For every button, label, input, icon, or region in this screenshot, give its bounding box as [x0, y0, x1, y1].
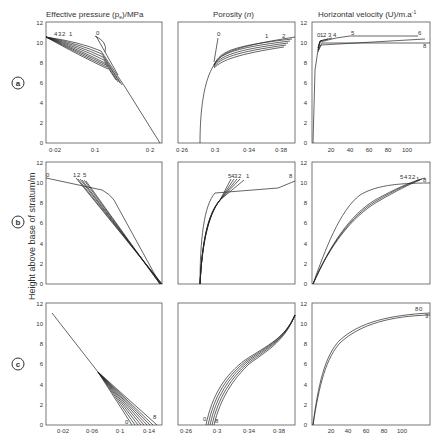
svg-text:0·26: 0·26	[176, 147, 189, 153]
svg-text:0: 0	[304, 281, 308, 287]
svg-text:0: 0	[40, 281, 44, 287]
x-ticks-pressure-a: 0·02 0·1 0·2	[49, 147, 155, 153]
svg-text:8: 8	[40, 341, 44, 347]
curves-b-porosity	[200, 179, 295, 284]
svg-text:8: 8	[423, 177, 427, 183]
curve-labels-a-pressure: 4 3 2 1 0	[54, 30, 100, 37]
svg-text:0·3: 0·3	[213, 428, 222, 434]
svg-text:8: 8	[40, 200, 44, 206]
svg-text:12: 12	[36, 20, 43, 26]
svg-text:0: 0	[40, 140, 44, 146]
svg-text:6: 6	[418, 30, 422, 36]
svg-text:4: 4	[304, 241, 308, 247]
svg-text:20: 20	[328, 428, 335, 434]
x-ticks-porosity-a: 0·26 0·3 0·34 0·38	[176, 147, 288, 153]
svg-text:0·06: 0·06	[86, 428, 99, 434]
svg-text:6: 6	[40, 361, 44, 367]
curve-labels-a-porosity: 0 1 2	[217, 31, 286, 39]
curves-c-pressure	[52, 313, 157, 425]
svg-text:0: 0	[304, 140, 308, 146]
y-ticks-right-a: 0 2 4 6 8 10 12	[300, 20, 307, 146]
svg-text:2: 2	[323, 32, 327, 38]
svg-text:10: 10	[36, 40, 43, 46]
svg-text:0·3: 0·3	[211, 147, 220, 153]
svg-text:2: 2	[40, 261, 44, 267]
svg-text:5: 5	[351, 30, 355, 36]
svg-text:12: 12	[300, 160, 307, 166]
curves-c-porosity	[206, 315, 295, 425]
svg-text:10: 10	[300, 180, 307, 186]
x-ticks-porosity-c: 0·26 0·3 0·34 0·38	[180, 428, 286, 434]
curve-labels-b-pressure: 0 1 2 5	[46, 172, 87, 178]
svg-text:2: 2	[304, 261, 308, 267]
svg-text:12: 12	[300, 301, 307, 307]
svg-text:8: 8	[423, 43, 427, 49]
svg-text:20: 20	[328, 147, 335, 153]
svg-text:2: 2	[62, 31, 66, 37]
svg-text:2: 2	[238, 173, 242, 179]
svg-text:0·34: 0·34	[243, 428, 256, 434]
svg-text:0·26: 0·26	[180, 428, 193, 434]
svg-text:40: 40	[347, 147, 354, 153]
svg-text:8: 8	[153, 414, 157, 420]
svg-text:0: 0	[96, 30, 100, 36]
title-velocity: Horizontal velocity (U)/m.a-1	[318, 9, 416, 19]
title-porosity: Porosity (n)	[213, 10, 254, 19]
svg-text:4: 4	[40, 241, 44, 247]
svg-text:1: 1	[69, 31, 73, 37]
svg-text:1: 1	[246, 173, 250, 179]
svg-text:10: 10	[36, 180, 43, 186]
svg-text:0·02: 0·02	[49, 147, 62, 153]
svg-text:100: 100	[397, 428, 408, 434]
svg-text:3: 3	[425, 313, 429, 319]
x-ticks-pressure-c: 0·02 0·06 0·1 0·14	[57, 428, 156, 434]
svg-text:8: 8	[304, 200, 308, 206]
svg-text:0: 0	[40, 422, 44, 428]
svg-text:80: 80	[381, 428, 388, 434]
svg-text:4: 4	[304, 100, 308, 106]
svg-text:4: 4	[304, 382, 308, 388]
svg-text:1: 1	[416, 176, 420, 182]
svg-text:2: 2	[282, 33, 286, 39]
svg-text:3: 3	[328, 32, 332, 38]
x-ticks-velocity-c: 20 40 60 80 100	[328, 428, 408, 434]
svg-text:12: 12	[36, 301, 43, 307]
svg-text:10: 10	[300, 321, 307, 327]
curves-b-pressure	[46, 178, 162, 284]
svg-text:0·2: 0·2	[146, 147, 155, 153]
svg-text:60: 60	[363, 428, 370, 434]
svg-text:100: 100	[402, 147, 413, 153]
svg-text:0: 0	[217, 31, 221, 37]
svg-text:0: 0	[419, 306, 423, 312]
svg-text:8: 8	[304, 60, 308, 66]
svg-text:0·34: 0·34	[243, 147, 256, 153]
y-ticks-right-b: 0 2 4 6 8 10 12	[300, 160, 307, 287]
figure: Effective pressure (pe)/MPa Porosity (n)…	[0, 0, 440, 444]
curve-labels-c-velocity: 8 0 3	[415, 306, 429, 319]
svg-text:5: 5	[83, 172, 87, 178]
svg-text:6: 6	[304, 220, 308, 226]
svg-text:8: 8	[289, 173, 293, 179]
y-axis-label: Height above base of stratum/m	[27, 172, 37, 300]
svg-text:40: 40	[345, 428, 352, 434]
svg-text:8: 8	[40, 60, 44, 66]
curves-c-velocity	[313, 313, 430, 425]
svg-text:8: 8	[215, 418, 219, 424]
svg-text:2: 2	[304, 120, 308, 126]
svg-text:80: 80	[385, 147, 392, 153]
svg-text:4: 4	[333, 32, 337, 38]
row-label-b: b	[12, 216, 24, 228]
svg-text:6: 6	[304, 80, 308, 86]
svg-text:0·38: 0·38	[275, 147, 288, 153]
svg-text:4: 4	[40, 100, 44, 106]
svg-text:6: 6	[40, 220, 44, 226]
svg-text:0·1: 0·1	[116, 428, 125, 434]
curves-a-velocity	[313, 36, 430, 143]
svg-text:2: 2	[77, 172, 81, 178]
svg-text:8: 8	[304, 341, 308, 347]
svg-text:4: 4	[40, 382, 44, 388]
y-ticks-left-c: 0 2 4 6 8 10 12	[36, 301, 43, 428]
svg-text:0·14: 0·14	[143, 428, 156, 434]
svg-text:0·1: 0·1	[91, 147, 100, 153]
curves-a-pressure	[46, 36, 160, 143]
